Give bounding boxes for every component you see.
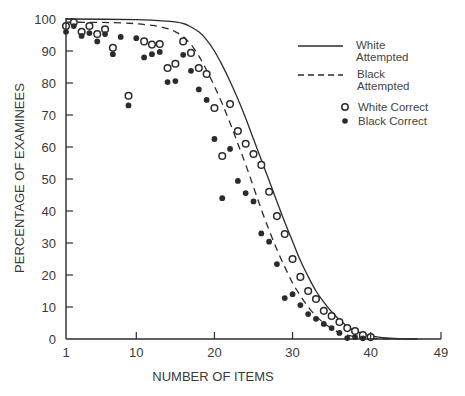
y-tick-label: 40 <box>42 204 56 219</box>
point-white-correct <box>211 105 218 112</box>
point-white-correct <box>180 38 187 45</box>
y-tick-label: 80 <box>42 76 56 91</box>
point-black-correct <box>149 51 155 57</box>
point-black-correct <box>258 231 264 237</box>
point-white-correct <box>305 288 312 295</box>
point-white-correct <box>266 189 273 196</box>
point-white-correct <box>281 231 288 238</box>
series-black-attempted-line <box>66 22 394 339</box>
x-tick-label: 40 <box>363 345 377 360</box>
legend-white-correct: White Correct <box>358 101 429 113</box>
legend-filled-circle-icon <box>342 118 348 124</box>
point-black-correct <box>79 33 85 39</box>
point-black-correct <box>243 190 249 196</box>
point-white-correct <box>203 71 210 78</box>
legend-open-circle-icon <box>342 104 348 110</box>
y-axis-title: PERCENTAGE OF EXAMINEES <box>12 83 27 273</box>
point-black-correct <box>126 103 132 109</box>
point-white-correct <box>250 151 257 158</box>
legend-white-attempted-line1: White <box>356 39 385 51</box>
point-white-correct <box>164 65 171 72</box>
y-tick-label: 0 <box>49 332 56 347</box>
legend-white-attempted-line2: Attempted <box>356 51 408 63</box>
point-white-correct <box>149 41 156 48</box>
legend: White Attempted Black Attempted White Co… <box>298 39 429 127</box>
x-tick-label: 49 <box>434 345 448 360</box>
y-tick-label: 70 <box>42 108 56 123</box>
point-black-correct <box>329 325 335 331</box>
plot-area: 0102030405060708090100 11020304049 <box>34 12 448 361</box>
point-black-correct <box>165 79 171 85</box>
point-white-correct <box>274 213 281 220</box>
point-white-correct <box>321 308 328 315</box>
point-black-correct <box>172 78 178 84</box>
point-black-correct <box>196 87 202 93</box>
point-white-correct <box>219 153 226 160</box>
x-axis-title: NUMBER OF ITEMS <box>152 369 274 384</box>
point-black-correct <box>204 97 210 103</box>
point-black-correct <box>282 295 288 301</box>
point-black-correct <box>133 35 139 41</box>
point-black-correct <box>141 55 147 61</box>
point-white-correct <box>227 101 234 108</box>
point-white-correct <box>289 256 296 263</box>
point-black-correct <box>188 68 194 74</box>
point-white-correct <box>141 38 148 45</box>
point-black-correct <box>227 146 233 152</box>
point-black-correct <box>235 178 241 184</box>
point-white-correct <box>196 65 203 72</box>
y-tick-label: 100 <box>34 12 56 27</box>
point-black-correct <box>321 321 327 327</box>
point-black-correct <box>157 49 163 55</box>
x-tick-label: 30 <box>285 345 299 360</box>
legend-black-attempted-line2: Attempted <box>357 80 409 92</box>
point-black-correct <box>71 23 77 29</box>
legend-black-attempted-line1: Black <box>357 68 385 80</box>
point-white-correct <box>242 141 249 148</box>
point-white-correct <box>328 313 335 320</box>
y-axis-ticks: 0102030405060708090100 <box>34 12 73 347</box>
series-white-attempted-line <box>66 19 418 339</box>
point-white-correct <box>344 325 351 332</box>
point-white-correct <box>188 50 195 57</box>
point-white-correct <box>86 23 93 30</box>
point-white-correct <box>336 319 343 326</box>
y-tick-label: 30 <box>42 236 56 251</box>
y-tick-label: 20 <box>42 268 56 283</box>
point-black-correct <box>266 239 272 245</box>
legend-black-correct: Black Correct <box>358 115 428 127</box>
point-white-correct <box>156 41 163 48</box>
point-black-correct <box>212 136 218 142</box>
point-black-correct <box>102 31 108 37</box>
point-black-correct <box>118 34 124 40</box>
point-white-correct <box>94 31 101 38</box>
point-black-correct <box>87 30 93 36</box>
y-tick-label: 50 <box>42 172 56 187</box>
x-tick-label: 10 <box>129 345 143 360</box>
point-black-correct <box>305 311 311 317</box>
point-white-correct <box>172 61 179 68</box>
point-black-correct <box>297 302 303 308</box>
point-white-correct <box>125 93 132 100</box>
point-black-correct <box>110 51 116 57</box>
chart-canvas: 0102030405060708090100 11020304049 PERCE… <box>0 0 465 396</box>
y-tick-label: 10 <box>42 300 56 315</box>
x-tick-label: 20 <box>207 345 221 360</box>
point-white-correct <box>110 45 117 52</box>
y-tick-label: 90 <box>42 44 56 59</box>
x-axis-ticks: 11020304049 <box>62 332 448 360</box>
y-tick-label: 60 <box>42 140 56 155</box>
point-black-correct <box>313 316 319 322</box>
point-black-correct <box>219 195 225 201</box>
point-white-correct <box>235 128 242 135</box>
point-black-correct <box>274 261 280 267</box>
point-black-correct <box>180 52 186 58</box>
point-black-correct <box>344 335 350 341</box>
point-black-correct <box>94 39 100 45</box>
point-black-correct <box>290 291 296 297</box>
point-white-correct <box>352 328 359 335</box>
point-black-correct <box>251 199 257 205</box>
point-white-correct <box>297 274 304 281</box>
point-white-correct <box>258 162 265 169</box>
point-black-correct <box>337 330 343 336</box>
